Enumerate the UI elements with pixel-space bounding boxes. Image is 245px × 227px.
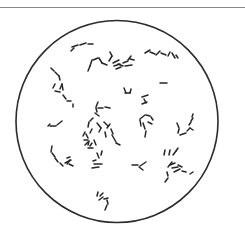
bacillus-rod — [83, 132, 85, 136]
bacillus-rod — [90, 60, 92, 66]
bacillus-rod — [59, 76, 60, 80]
bacillus-rod — [177, 123, 179, 128]
bacillus-rod — [97, 153, 99, 158]
bacillus-rod — [93, 160, 96, 161]
bacillus-rod — [176, 55, 178, 58]
bacillus-rod — [100, 193, 103, 196]
bacillus-rod — [190, 128, 193, 130]
bacillus-rod — [165, 178, 168, 182]
bacillus-rod — [72, 45, 78, 47]
bacillus-rod — [164, 150, 165, 155]
bacillus-rod — [52, 153, 55, 157]
bacillus-rod — [90, 129, 92, 133]
bacillus-rod — [178, 129, 179, 133]
bacillus-rod — [92, 167, 99, 168]
bacillus-rod — [88, 141, 89, 145]
bacillus-rod — [123, 61, 128, 63]
bacillus-rod — [174, 169, 180, 172]
bacillus-rod — [88, 66, 90, 71]
bacillus-rod — [140, 115, 145, 119]
bacillus-rod — [176, 148, 178, 151]
bacillus-rod — [67, 157, 70, 158]
bacillus-rod — [53, 84, 55, 88]
bacillus-rod — [55, 72, 59, 76]
bacillus-rod — [167, 172, 168, 176]
bacillus-rod — [105, 132, 106, 137]
bacillus-rod — [90, 118, 93, 121]
bacillus-rod — [172, 53, 175, 58]
bacillus-rod — [69, 164, 73, 166]
bacillus-rod — [95, 113, 99, 116]
bacillus-rod — [71, 48, 74, 51]
bacillus-rod — [63, 95, 66, 99]
bacillus-rod — [145, 131, 146, 137]
bacillus-rod — [190, 172, 193, 174]
bacillus-rod — [97, 123, 101, 128]
bacillus-rod — [172, 167, 178, 168]
bacillus-rod — [99, 197, 103, 200]
bacillus-rod — [130, 59, 134, 60]
bacillus-rod — [182, 171, 186, 172]
bacillus-rod — [180, 133, 186, 135]
bacillus-rod — [96, 102, 98, 107]
bacillus-rod — [113, 60, 119, 63]
bacillus-rod — [161, 53, 166, 55]
bacillus-rod — [99, 128, 101, 132]
bacillus-rod — [105, 107, 110, 108]
microscope-field-view — [0, 0, 245, 227]
bacillus-rod — [109, 56, 112, 61]
bacillus-rod — [143, 123, 145, 129]
bacillus-rod — [125, 65, 132, 66]
bacillus-rod — [102, 63, 107, 65]
bacillus-rod — [168, 52, 170, 56]
bacillus-rod — [191, 118, 193, 121]
bacillus-rod — [140, 120, 141, 126]
bacillus-rod — [116, 143, 120, 145]
bacillus-rod — [62, 84, 63, 90]
bacillus-rod — [96, 108, 97, 112]
bacillus-rod — [55, 158, 58, 162]
bacillus-rod — [94, 140, 96, 145]
bacillus-rod — [142, 95, 148, 97]
bacillus-rod — [90, 143, 92, 146]
bacillus-rod — [111, 129, 113, 134]
bacillus-rod — [104, 198, 108, 199]
bacilli-rods-group — [48, 43, 193, 210]
bacillus-rod — [97, 192, 98, 196]
bacillus-rod — [140, 162, 146, 166]
bacillus-rod — [130, 89, 131, 93]
bacillus-rod — [101, 151, 102, 155]
bacillus-rod — [169, 150, 170, 155]
bacillus-rod — [139, 167, 143, 170]
bacillus-rod — [151, 117, 153, 120]
bacillus-rod — [104, 122, 108, 126]
bacillus-rod — [57, 121, 62, 125]
bacillus-rod — [192, 114, 193, 117]
bacillus-rod — [116, 67, 121, 69]
bacillus-rod — [51, 146, 52, 152]
bacillus-rod — [150, 52, 155, 54]
microscope-field-figure — [0, 0, 245, 227]
bacillus-rod — [105, 205, 107, 210]
bacillus-rod — [112, 135, 116, 142]
bacillus-rod — [110, 52, 112, 56]
bacillus-rod — [189, 122, 191, 125]
bacillus-rod — [99, 58, 102, 63]
bacillus-rod — [107, 200, 108, 204]
bacillus-rod — [86, 134, 88, 138]
bacillus-rod — [146, 115, 150, 116]
bacillus-rod — [93, 58, 98, 60]
bacillus-rod — [51, 68, 54, 71]
bacillus-rod — [118, 64, 123, 66]
bacillus-rod — [88, 122, 89, 127]
bacillus-rod — [148, 122, 152, 124]
field-of-view-circle — [16, 21, 218, 223]
bacillus-rod — [55, 91, 60, 92]
bacillus-rod — [145, 50, 150, 53]
bacillus-rod — [80, 43, 86, 45]
bacillus-rod — [156, 51, 160, 55]
bacillus-rod — [60, 163, 63, 166]
